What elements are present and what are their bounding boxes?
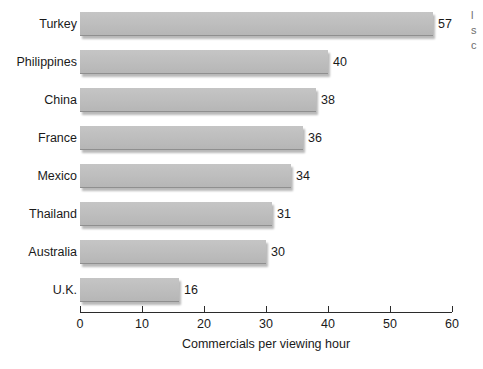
bar-container [80,88,316,112]
x-axis-tick-label: 10 [122,316,162,332]
x-axis-line [80,312,452,313]
x-axis-title: Commercials per viewing hour [80,337,452,351]
x-axis-tick [452,306,453,312]
edge-fragment-line-3: c [471,38,483,53]
edge-fragment-line-1: l [471,8,483,23]
bar-row: Australia30 [0,240,483,264]
category-label: France [0,128,77,148]
x-axis-tick-label: 0 [60,316,100,332]
bar[interactable] [80,202,272,226]
bar-row: U.K.16 [0,278,483,302]
bar-container [80,126,303,150]
x-axis-tick [266,306,267,312]
x-axis-tick-label: 40 [308,316,348,332]
category-label: China [0,90,77,110]
category-label: Australia [0,242,77,262]
bar-row: Philippines40 [0,50,483,74]
category-label: Philippines [0,52,77,72]
category-label: Turkey [0,14,77,34]
bar-value-label: 36 [308,128,322,148]
bar-container [80,202,272,226]
category-label: U.K. [0,280,77,300]
bar-value-label: 40 [333,52,347,72]
x-axis-tick-label: 50 [370,316,410,332]
x-axis-tick-label: 30 [246,316,286,332]
page-edge-text-fragment: l s c [471,8,483,53]
bar-container [80,12,433,36]
bar-value-label: 30 [271,242,285,262]
bar[interactable] [80,50,328,74]
bar-container [80,50,328,74]
bar-container [80,278,179,302]
x-axis-tick [328,306,329,312]
bar-row: France36 [0,126,483,150]
bar-value-label: 16 [184,280,198,300]
bar-row: China38 [0,88,483,112]
category-label: Mexico [0,166,77,186]
bar-container [80,164,291,188]
bar-container [80,240,266,264]
x-axis-tick [80,306,81,312]
x-axis-tick [390,306,391,312]
bar[interactable] [80,278,179,302]
x-axis-tick-label: 60 [432,316,472,332]
bar-value-label: 34 [296,166,310,186]
bar-chart: Turkey57Philippines40China38France36Mexi… [0,0,483,369]
bar-value-label: 38 [321,90,335,110]
bar[interactable] [80,126,303,150]
bar-row: Turkey57 [0,12,483,36]
bar-value-label: 31 [277,204,291,224]
x-axis-tick [142,306,143,312]
bar-row: Thailand31 [0,202,483,226]
plot-area: Turkey57Philippines40China38France36Mexi… [0,0,483,369]
bar-value-label: 57 [438,14,452,34]
edge-fragment-line-2: s [471,23,483,38]
x-axis-tick [204,306,205,312]
x-axis-tick-label: 20 [184,316,224,332]
bar[interactable] [80,240,266,264]
bar-row: Mexico34 [0,164,483,188]
bar[interactable] [80,88,316,112]
bar[interactable] [80,12,433,36]
bar[interactable] [80,164,291,188]
category-label: Thailand [0,204,77,224]
